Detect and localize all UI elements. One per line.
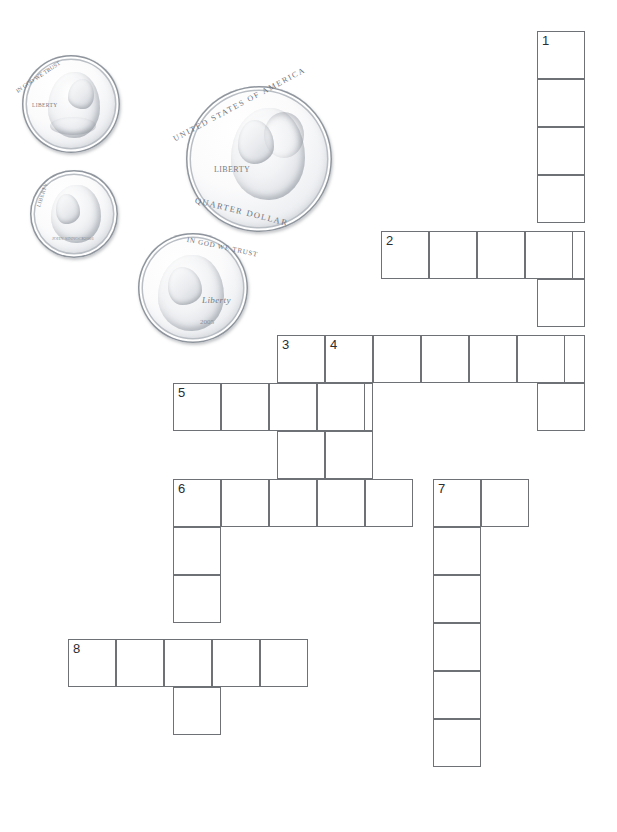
- crossword-cell[interactable]: [221, 479, 269, 527]
- crossword-cell[interactable]: [221, 383, 269, 431]
- crossword-cell[interactable]: [173, 527, 221, 575]
- clue-number-7: 7: [438, 481, 445, 496]
- clue-number-2: 2: [386, 233, 393, 248]
- crossword-cell[interactable]: [429, 231, 477, 279]
- crossword-cell[interactable]: [317, 479, 365, 527]
- crossword-cell[interactable]: [269, 383, 317, 431]
- crossword-cell[interactable]: [537, 175, 585, 223]
- crossword-cell[interactable]: 4: [325, 335, 373, 383]
- crossword-cell[interactable]: [173, 575, 221, 623]
- clue-number-4: 4: [330, 337, 337, 352]
- crossword-cell[interactable]: [373, 335, 421, 383]
- crossword-cell[interactable]: [365, 479, 413, 527]
- crossword-cell[interactable]: 2: [381, 231, 429, 279]
- crossword-cell[interactable]: [537, 79, 585, 127]
- crossword-cell[interactable]: 7: [433, 479, 481, 527]
- crossword-cell[interactable]: 6: [173, 479, 221, 527]
- crossword-cell[interactable]: [269, 479, 317, 527]
- crossword-cell[interactable]: [421, 335, 469, 383]
- crossword-cell[interactable]: [477, 231, 525, 279]
- crossword-cell[interactable]: [433, 671, 481, 719]
- crossword-cell[interactable]: [525, 231, 573, 279]
- puzzle-page: IN GOD WE TRUST LIBERTY LIBERTY 2001 JOH…: [0, 0, 617, 832]
- crossword-cell[interactable]: 5: [173, 383, 221, 431]
- crossword-cell[interactable]: 8: [68, 639, 116, 687]
- clue-number-6: 6: [178, 481, 185, 496]
- crossword-cell[interactable]: [260, 639, 308, 687]
- clue-number-3: 3: [282, 337, 289, 352]
- crossword-cell[interactable]: [164, 639, 212, 687]
- crossword-cell[interactable]: [277, 431, 325, 479]
- crossword-cell[interactable]: [173, 687, 221, 735]
- crossword-cell[interactable]: [433, 527, 481, 575]
- crossword-cell[interactable]: 3: [277, 335, 325, 383]
- crossword-cell[interactable]: [433, 623, 481, 671]
- crossword-cell[interactable]: [325, 431, 373, 479]
- crossword-cell[interactable]: [537, 279, 585, 327]
- crossword-grid[interactable]: 12345678: [0, 0, 617, 832]
- crossword-cell[interactable]: [469, 335, 517, 383]
- crossword-cell[interactable]: [517, 335, 565, 383]
- crossword-cell[interactable]: [537, 383, 585, 431]
- clue-number-8: 8: [73, 641, 80, 656]
- crossword-cell[interactable]: 1: [537, 31, 585, 79]
- crossword-cell[interactable]: [212, 639, 260, 687]
- crossword-cell[interactable]: [537, 127, 585, 175]
- crossword-cell[interactable]: [317, 383, 365, 431]
- crossword-cell[interactable]: [433, 719, 481, 767]
- crossword-cell[interactable]: [433, 575, 481, 623]
- clue-number-1: 1: [542, 33, 549, 48]
- crossword-cell[interactable]: [116, 639, 164, 687]
- crossword-cell[interactable]: [481, 479, 529, 527]
- clue-number-5: 5: [178, 385, 185, 400]
